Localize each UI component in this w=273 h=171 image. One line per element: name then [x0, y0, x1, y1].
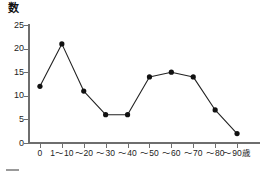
series-data-point — [191, 74, 196, 79]
series-data-point — [213, 107, 218, 112]
series-line-path — [40, 44, 237, 134]
series-data-point — [37, 84, 42, 89]
series-data-point — [81, 88, 86, 93]
chart-figure: 数 0510152025 01～10～20～30～40～50～60～70～80～… — [0, 0, 273, 171]
series-data-point — [59, 41, 64, 46]
series-data-point — [234, 131, 239, 136]
series-plot — [0, 0, 273, 171]
series-data-point — [125, 112, 130, 117]
figure-caption — [6, 164, 273, 171]
series-data-point — [147, 74, 152, 79]
series-data-point — [169, 70, 174, 75]
caption-rule — [6, 169, 19, 171]
series-data-point — [103, 112, 108, 117]
